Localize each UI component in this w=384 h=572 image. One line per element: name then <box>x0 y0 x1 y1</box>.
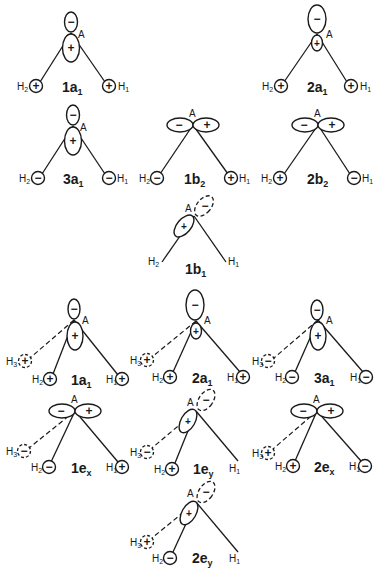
svg-text:−: − <box>45 460 52 474</box>
orbital-label-2ey: 2ey <box>192 550 213 568</box>
atom-a-label: A <box>326 315 333 326</box>
svg-text:−: − <box>361 459 368 473</box>
svg-text:−: − <box>67 15 74 29</box>
panel-ah3-2ey: − + A + H3 − H2 H1 2ey <box>130 478 240 568</box>
h2-label: H2 <box>152 553 163 565</box>
svg-text:−: − <box>313 303 320 317</box>
atom-a-label: A <box>82 315 89 326</box>
svg-text:−: − <box>313 12 320 26</box>
h1-label: H1 <box>117 173 128 185</box>
svg-text:+: + <box>21 354 28 368</box>
svg-text:−: − <box>288 370 295 384</box>
h2-label: H2 <box>275 461 286 473</box>
svg-text:+: + <box>347 79 354 93</box>
svg-text:+: + <box>186 508 192 519</box>
h2-label: H2 <box>31 462 42 474</box>
svg-text:−: − <box>166 551 173 565</box>
h1-label: H1 <box>227 372 238 384</box>
h3-label: H3 <box>252 448 263 460</box>
orbital-label-1b2: 1b2 <box>184 171 205 189</box>
orbital-label-2a1: 2a1 <box>307 79 328 97</box>
panel-ah3-3a1: − + A − H3 − H2 − H1 3a1 <box>252 300 373 388</box>
panel-ah2-1b1: − + A H2 H1 1b1 <box>148 192 239 279</box>
svg-text:+: + <box>181 221 187 232</box>
svg-text:+: + <box>314 329 321 343</box>
svg-text:−: − <box>264 354 271 368</box>
svg-text:−: − <box>201 199 208 213</box>
svg-text:+: + <box>85 404 92 418</box>
svg-text:−: − <box>202 393 209 407</box>
h3-label: H3 <box>6 356 17 368</box>
orbital-label-1ex: 1ex <box>71 460 92 478</box>
h3-label: H3 <box>252 356 263 368</box>
svg-text:−: − <box>20 444 27 458</box>
h1-label: H1 <box>349 461 360 473</box>
h1-label: H1 <box>360 81 371 93</box>
svg-text:+: + <box>289 459 296 473</box>
svg-text:−: − <box>299 404 306 418</box>
atom-a-label: A <box>78 29 85 40</box>
h3-label: H3 <box>130 447 141 459</box>
atom-a-label: A <box>204 315 211 326</box>
svg-text:+: + <box>203 118 210 132</box>
h1-label: H1 <box>239 173 250 185</box>
svg-text:−: − <box>175 118 182 132</box>
h1-label: H1 <box>229 553 240 565</box>
orbital-diagram-figure: − + A + H2 + H1 1a1 − + A + H2 + H1 2a1 … <box>0 0 384 572</box>
h1-label: H1 <box>118 81 129 93</box>
orbital-label-1ey: 1ey <box>193 461 214 479</box>
svg-text:+: + <box>143 535 150 549</box>
h2-label: H2 <box>275 372 286 384</box>
svg-text:+: + <box>314 38 320 49</box>
svg-text:+: + <box>264 446 271 460</box>
h2-label: H2 <box>139 173 150 185</box>
h2-label: H2 <box>19 173 30 185</box>
panel-ah3-1a1: − + A + H3 + H2 + H1 1a1 <box>6 299 129 390</box>
atom-a-label: A <box>326 29 333 40</box>
h2-label: H2 <box>148 256 159 268</box>
svg-text:+: + <box>143 353 150 367</box>
atom-a-label: A <box>187 397 194 408</box>
h1-label: H1 <box>350 372 361 384</box>
svg-text:+: + <box>227 171 234 185</box>
h2-label: H2 <box>262 81 273 93</box>
panel-ah2-1a1: − + A + H2 + H1 1a1 <box>17 12 129 97</box>
h3-label: H3 <box>6 446 17 458</box>
atom-a-label: A <box>185 203 192 214</box>
h2-label: H2 <box>17 81 28 93</box>
svg-text:−: − <box>69 108 76 122</box>
h2-label: H2 <box>152 372 163 384</box>
atom-a-label: A <box>313 394 320 405</box>
svg-text:−: − <box>362 370 369 384</box>
h1-label: H1 <box>229 463 240 475</box>
panel-ah3-2a1: − + A + H3 + H2 + H1 2a1 <box>130 290 250 388</box>
svg-text:+: + <box>69 134 76 148</box>
panel-ah2-2a1: − + A + H2 + H1 2a1 <box>262 5 371 97</box>
h2-label: H2 <box>154 464 165 476</box>
panel-ah2-1b2: − + A − H2 + H1 1b2 <box>139 108 250 189</box>
orbital-label-1a1: 1a1 <box>71 372 92 390</box>
svg-text:−: − <box>70 302 77 316</box>
atom-a-label: A <box>71 394 78 405</box>
svg-text:+: + <box>168 462 175 476</box>
panel-ah2-3a1: − + A − H2 − H1 3a1 <box>19 105 128 189</box>
panel-ah3-1ex: − + A − H3 − H2 + H1 1ex <box>6 394 129 478</box>
panel-ah3-2ex: − + A + H3 + H2 − H1 2ex <box>252 394 372 477</box>
h1-label: H1 <box>362 173 373 185</box>
svg-text:+: + <box>105 79 112 93</box>
orbital-label-3a1: 3a1 <box>63 171 84 189</box>
svg-text:−: − <box>191 298 198 312</box>
svg-text:−: − <box>57 404 64 418</box>
svg-text:+: + <box>185 416 191 427</box>
svg-text:−: − <box>350 171 357 185</box>
svg-text:+: + <box>327 404 334 418</box>
svg-text:+: + <box>46 372 53 386</box>
h1-label: H1 <box>106 462 117 474</box>
atom-a-label: A <box>189 108 196 119</box>
svg-text:+: + <box>239 370 246 384</box>
svg-text:−: − <box>34 171 41 185</box>
h2-label: H2 <box>261 173 272 185</box>
svg-text:+: + <box>118 460 125 474</box>
svg-text:+: + <box>328 118 335 132</box>
orbital-label-2ex: 2ex <box>314 459 335 477</box>
